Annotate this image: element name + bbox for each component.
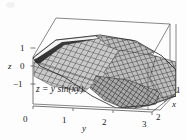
equation-annotation: z = y sin(xy) <box>36 85 83 95</box>
x-tick-label-1: 1 <box>176 86 181 95</box>
z-axis-title: z <box>8 62 12 71</box>
z-tick-label-1: 1 <box>20 44 25 53</box>
x-tick-label-2: 2 <box>156 113 161 122</box>
z-tick-label-0: 0 <box>20 62 25 71</box>
x-axis-title: x <box>172 100 176 109</box>
y-axis-title: y <box>82 124 86 133</box>
surface-plot-figure: 1 0 −1 z 0 1 2 3 y 1 2 x z = y sin(xy) <box>0 0 187 140</box>
y-tick-label-1: 1 <box>62 116 67 125</box>
y-tick-label-0: 0 <box>23 115 28 124</box>
y-tick-label-3: 3 <box>142 120 147 129</box>
surface-mesh <box>33 35 176 110</box>
y-tick-label-2: 2 <box>102 118 107 127</box>
z-tick-label-minus-1: −1 <box>13 80 23 89</box>
